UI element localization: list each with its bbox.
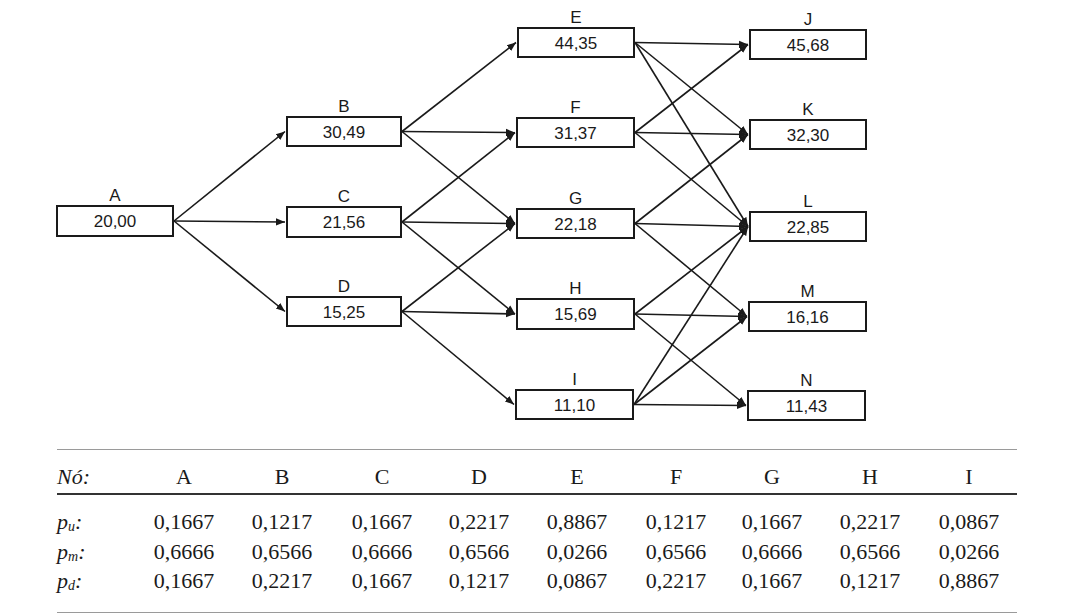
- node-label: G: [569, 189, 582, 208]
- node-K: K32,30: [750, 100, 866, 149]
- table-cell: 0,0266: [924, 539, 1014, 565]
- column-header: I: [924, 464, 1014, 490]
- edge-arrow-A-C: [174, 221, 285, 222]
- table-cell: 0,6666: [139, 539, 229, 565]
- table-cell: 0,1217: [237, 509, 327, 535]
- table-row-pm: pm: 0,6666 0,6566 0,6666 0,6566 0,0266 0…: [57, 539, 1017, 563]
- node-label: J: [804, 10, 813, 29]
- column-header: C: [337, 464, 427, 490]
- node-value: 20,00: [94, 212, 137, 231]
- node-L: L22,85: [750, 192, 866, 241]
- column-header: H: [825, 464, 915, 490]
- table-cell: 0,2217: [825, 509, 915, 535]
- edge-arrow-C-G: [402, 222, 515, 224]
- node-D: D15,25: [287, 277, 401, 326]
- node-label: D: [338, 277, 350, 296]
- column-header: A: [139, 464, 229, 490]
- edge-arrow-G-L: [635, 224, 748, 227]
- node-J: J45,68: [750, 10, 866, 59]
- trinomial-tree-diagram: A20,00B30,49C21,56D15,25E44,35F31,37G22,…: [0, 0, 1066, 440]
- table-row-pu: pu: 0,1667 0,1217 0,1667 0,2217 0,8867 0…: [57, 509, 1017, 533]
- table-cell: 0,1217: [434, 568, 524, 594]
- table-cell: 0,1667: [727, 568, 817, 594]
- table-top-rule: [57, 449, 1017, 450]
- node-label: N: [800, 371, 812, 390]
- node-label: H: [569, 279, 581, 298]
- node-F: F31,37: [517, 98, 634, 147]
- table-cell: 0,6566: [237, 539, 327, 565]
- node-label: I: [572, 370, 577, 389]
- node-value: 16,16: [786, 308, 829, 327]
- node-value: 44,35: [555, 34, 598, 53]
- node-value: 45,68: [787, 36, 830, 55]
- edge-arrow-F-K: [635, 133, 748, 135]
- table-cell: 0,2217: [631, 568, 721, 594]
- edge-arrow-I-M: [634, 317, 747, 405]
- node-label: B: [338, 97, 349, 116]
- node-A: A20,00: [57, 186, 173, 236]
- edge-arrow-E-J: [635, 43, 748, 45]
- edge-arrow-F-J: [635, 45, 748, 133]
- edge-arrow-I-N: [634, 405, 746, 406]
- edge-arrow-H-L: [635, 227, 748, 315]
- column-header: B: [237, 464, 327, 490]
- node-value: 21,56: [323, 213, 366, 232]
- nodes-layer: A20,00B30,49C21,56D15,25E44,35F31,37G22,…: [57, 8, 866, 420]
- column-header: F: [631, 464, 721, 490]
- table-cell: 0,1667: [139, 568, 229, 594]
- node-value: 32,30: [787, 126, 830, 145]
- edge-arrow-A-B: [174, 132, 285, 222]
- node-E: E44,35: [518, 8, 634, 57]
- node-N: N11,43: [748, 371, 865, 420]
- table-cell: 0,1667: [337, 568, 427, 594]
- table-cell: 0,1667: [139, 509, 229, 535]
- node-value: 30,49: [323, 123, 366, 142]
- table-cell: 0,6566: [434, 539, 524, 565]
- node-M: M16,16: [749, 282, 866, 331]
- node-value: 15,69: [554, 305, 597, 324]
- node-label: A: [109, 186, 121, 205]
- table-bottom-rule: [57, 612, 1017, 613]
- node-label: M: [800, 282, 814, 301]
- row-label: pd:: [57, 568, 82, 594]
- node-value: 22,85: [787, 218, 830, 237]
- table-row-pd: pd: 0,1667 0,2217 0,1667 0,1217 0,0867 0…: [57, 568, 1017, 592]
- edges-layer: [174, 43, 748, 406]
- row-label: pu:: [57, 509, 82, 535]
- node-label: L: [803, 192, 812, 211]
- edge-arrow-B-E: [402, 43, 516, 132]
- edge-arrow-D-I: [402, 312, 514, 405]
- table-cell: 0,1667: [337, 509, 427, 535]
- node-label: F: [570, 98, 580, 117]
- table-cell: 0,1217: [631, 509, 721, 535]
- node-value: 31,37: [554, 124, 597, 143]
- column-header: G: [727, 464, 817, 490]
- node-C: C21,56: [287, 187, 401, 237]
- node-I: I11,10: [516, 370, 633, 419]
- edge-arrow-D-H: [402, 312, 515, 315]
- column-header: E: [532, 464, 622, 490]
- node-value: 11,43: [786, 397, 827, 416]
- header-label: Nó:: [57, 464, 90, 490]
- edge-arrow-G-K: [635, 135, 748, 224]
- table-header-row: Nó: A B C D E F G H I: [57, 464, 1017, 488]
- column-header: D: [434, 464, 524, 490]
- table-cell: 0,2217: [237, 568, 327, 594]
- node-value: 15,25: [323, 303, 366, 322]
- edge-arrow-B-F: [402, 132, 515, 133]
- node-value: 11,10: [554, 396, 595, 415]
- table-cell: 0,6566: [631, 539, 721, 565]
- table-cell: 0,8867: [924, 568, 1014, 594]
- table-cell: 0,6666: [337, 539, 427, 565]
- table-cell: 0,1667: [727, 509, 817, 535]
- table-header-rule: [57, 493, 1017, 495]
- node-value: 22,18: [554, 215, 597, 234]
- node-B: B30,49: [287, 97, 401, 146]
- table-cell: 0,1217: [825, 568, 915, 594]
- edge-arrow-A-D: [174, 221, 285, 312]
- node-H: H15,69: [517, 279, 634, 329]
- row-label: pm:: [57, 539, 85, 565]
- node-G: G22,18: [517, 189, 634, 238]
- node-label: E: [570, 8, 581, 27]
- table-cell: 0,0867: [532, 568, 622, 594]
